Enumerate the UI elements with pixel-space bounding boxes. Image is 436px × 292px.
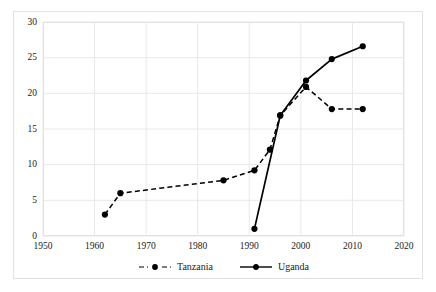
data-series-layer <box>102 43 366 232</box>
data-point-uganda-2006 <box>329 56 335 62</box>
x-tick-1980: 1980 <box>178 241 218 251</box>
x-tick-1970: 1970 <box>126 241 166 251</box>
legend-label-tanzania: Tanzania <box>177 262 213 272</box>
x-tick-2020: 2020 <box>384 241 424 251</box>
line-chart: 051015202530 195019601970198019902000201… <box>0 0 436 292</box>
y-tick-15: 15 <box>9 124 37 134</box>
x-tick-1960: 1960 <box>75 241 115 251</box>
data-point-uganda-2012 <box>360 43 366 49</box>
series-line-tanzania <box>105 87 363 215</box>
data-point-tanzania-1985 <box>220 177 226 183</box>
y-tick-5: 5 <box>9 195 37 205</box>
y-tick-20: 20 <box>9 88 37 98</box>
x-tick-2010: 2010 <box>332 241 372 251</box>
legend-swatch-solid-icon <box>239 262 273 272</box>
data-point-uganda-1996 <box>277 112 283 118</box>
series-line-uganda <box>254 46 362 229</box>
legend-swatch-dashed-icon <box>138 262 172 272</box>
data-point-tanzania-1991 <box>251 167 257 173</box>
legend-label-uganda: Uganda <box>278 262 309 272</box>
y-tick-25: 25 <box>9 52 37 62</box>
y-tick-30: 30 <box>9 17 37 27</box>
y-tick-10: 10 <box>9 159 37 169</box>
gridlines <box>43 22 404 236</box>
data-point-tanzania-1965 <box>117 190 123 196</box>
chart-legend: Tanzania Uganda <box>43 258 404 276</box>
x-tick-1990: 1990 <box>229 241 269 251</box>
data-point-uganda-2001 <box>303 77 309 83</box>
data-point-tanzania-2012 <box>360 106 366 112</box>
x-tick-2000: 2000 <box>281 241 321 251</box>
data-point-tanzania-1962 <box>102 212 108 218</box>
data-point-uganda-1991 <box>251 226 257 232</box>
x-tick-1950: 1950 <box>23 241 63 251</box>
legend-item-tanzania[interactable]: Tanzania <box>138 262 213 272</box>
legend-item-uganda[interactable]: Uganda <box>239 262 309 272</box>
data-point-tanzania-2006 <box>329 106 335 112</box>
y-tick-0: 0 <box>9 231 37 241</box>
